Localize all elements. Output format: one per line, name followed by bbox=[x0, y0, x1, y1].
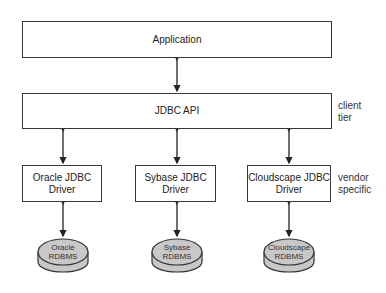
application-label: Application bbox=[153, 34, 202, 46]
jdbc-api-box: JDBC API bbox=[22, 93, 332, 129]
jdbc-api-label: JDBC API bbox=[155, 105, 199, 117]
oracle-db-label: Oracle RDBMS bbox=[38, 243, 88, 261]
application-box: Application bbox=[22, 21, 332, 58]
sybase-driver-box: Sybase JDBC Driver bbox=[135, 165, 216, 202]
cloudscape-driver-box: Cloudscape JDBC Driver bbox=[247, 165, 331, 202]
sybase-db-label: Sybase RDBMS bbox=[152, 243, 202, 261]
oracle-driver-box: Oracle JDBC Driver bbox=[22, 165, 102, 202]
cloudscape-db-label: Cloudscape RDBMS bbox=[262, 243, 316, 261]
vendor-specific-label: vendor specific bbox=[338, 172, 371, 196]
client-tier-label: client tier bbox=[338, 100, 361, 124]
